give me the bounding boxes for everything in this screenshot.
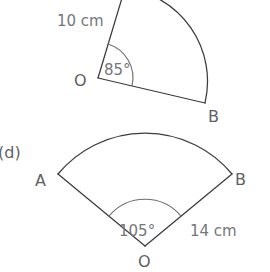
sector-top-vertex-label-o: O xyxy=(74,71,87,90)
sector-top-radius-label: 10 cm xyxy=(57,12,104,30)
sector-top-angle-label: 85° xyxy=(104,61,131,79)
sector-bottom-outer-arc xyxy=(58,133,232,174)
sector-bottom-point-label-a: A xyxy=(35,171,46,190)
sector-bottom-group: (d) A B 105° 14 cm O xyxy=(0,133,246,271)
sector-bottom-radius-label: 14 cm xyxy=(190,222,237,240)
sector-top-radius-right xyxy=(98,78,205,103)
sector-bottom-angle-arc xyxy=(109,199,181,216)
sector-bottom-angle-label: 105° xyxy=(119,222,155,240)
sector-bottom-point-label-b: B xyxy=(235,170,246,189)
sector-top-point-label-b: B xyxy=(208,107,219,126)
figure-canvas-root: 10 cm 85° O B (d) A B 105° 14 cm O xyxy=(0,0,270,272)
sector-top-group: 10 cm 85° O B xyxy=(57,0,219,126)
sector-bottom-part-label: (d) xyxy=(0,143,21,162)
geometry-figure-svg: 10 cm 85° O B (d) A B 105° 14 cm O xyxy=(0,0,270,272)
sector-bottom-vertex-label-o: O xyxy=(138,252,151,271)
